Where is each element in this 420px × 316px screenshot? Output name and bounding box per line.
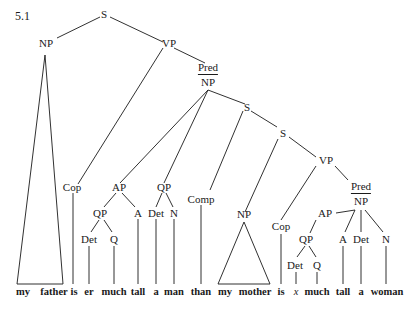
word-x: x <box>294 286 299 298</box>
node-vp-2: VP <box>319 154 333 166</box>
word-my-2: my <box>218 286 232 298</box>
node-q-2: Q <box>313 259 321 271</box>
fraction-bar <box>351 193 371 194</box>
node-cop-2: Cop <box>272 220 290 232</box>
word-much-2: much <box>304 286 329 298</box>
word-tall: tall <box>131 286 146 298</box>
node-q-1: Q <box>110 233 118 245</box>
node-ap-2: AP <box>318 207 332 219</box>
example-number: 5.1 <box>15 9 30 24</box>
node-qp-1: QP <box>93 207 107 219</box>
node-pred-np-main: Pred NP <box>198 61 218 88</box>
node-det-3: Det <box>287 259 303 271</box>
node-np-subject: NP <box>39 37 53 49</box>
node-det-1: Det <box>81 233 97 245</box>
pred-label: Pred <box>351 180 371 192</box>
word-than: than <box>191 286 211 298</box>
node-s-3: S <box>280 127 286 139</box>
pred-label: Pred <box>198 61 218 73</box>
word-my: my <box>16 286 30 298</box>
word-is: is <box>70 286 77 298</box>
fraction-bar <box>198 74 218 75</box>
word-father: father <box>40 286 67 298</box>
node-a-2: A <box>339 233 347 245</box>
word-is-2: is <box>277 286 284 298</box>
node-n-2: N <box>382 233 390 245</box>
node-pred-np-2: Pred NP <box>351 180 371 207</box>
word-man: man <box>164 286 184 298</box>
word-much: much <box>101 286 126 298</box>
word-a-2: a <box>358 286 363 298</box>
node-n-1: N <box>170 207 178 219</box>
np-label: NP <box>198 76 218 88</box>
node-s-2: S <box>244 101 250 113</box>
tree-edges <box>0 0 420 316</box>
word-tall-2: tall <box>336 286 351 298</box>
word-er: er <box>84 286 93 298</box>
np-label: NP <box>351 195 371 207</box>
node-cop-1: Cop <box>63 181 81 193</box>
node-s-root: S <box>101 8 107 20</box>
node-det-4: Det <box>353 233 369 245</box>
node-ap-1: AP <box>112 181 126 193</box>
word-woman: woman <box>371 286 404 298</box>
node-qp-3: QP <box>299 233 313 245</box>
node-qp-2: QP <box>157 181 171 193</box>
node-comp: Comp <box>188 193 215 205</box>
word-mother: mother <box>239 286 272 298</box>
node-vp-main: VP <box>162 37 176 49</box>
node-np-2: NP <box>237 208 251 220</box>
node-a-1: A <box>134 207 142 219</box>
word-a: a <box>153 286 158 298</box>
node-det-2: Det <box>148 207 164 219</box>
